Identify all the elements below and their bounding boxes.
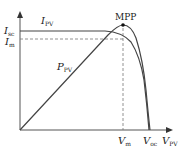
x-axis-arrow-icon	[166, 127, 173, 133]
im-label: Im	[4, 36, 15, 48]
voc-label: Voc	[143, 135, 158, 147]
vpv-label: VPV	[162, 135, 178, 147]
ppv-label: PPV	[56, 61, 73, 73]
y-axis-arrow-icon	[17, 11, 23, 18]
iv-curve	[20, 31, 149, 130]
pv-characteristic-diagram: Isc Im IPV PPV MPP Vm Voc VPV	[0, 0, 182, 149]
mpp-label: MPP	[115, 12, 136, 22]
mpp-point	[121, 23, 125, 27]
ipv-label: IPV	[40, 15, 54, 27]
vm-label: Vm	[118, 135, 131, 147]
